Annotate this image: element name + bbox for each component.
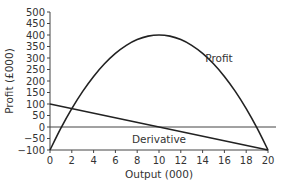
- x-tick-label: 10: [153, 155, 166, 166]
- y-tick-label: 250: [26, 64, 45, 75]
- y-tick-label: 0: [39, 122, 45, 133]
- x-axis-label: Output (000): [125, 168, 193, 180]
- x-tick-label: 14: [196, 155, 209, 166]
- x-tick-label: 2: [69, 155, 75, 166]
- x-tick-label: 20: [262, 155, 275, 166]
- y-tick-label: 50: [32, 110, 45, 121]
- y-tick-label: 400: [26, 30, 45, 41]
- series-label-derivative: Derivative: [132, 133, 186, 145]
- x-tick-label: 16: [218, 155, 231, 166]
- y-tick-label: 150: [26, 87, 45, 98]
- series-label-profit: Profit: [205, 52, 232, 64]
- y-tick-label: 300: [26, 53, 45, 64]
- x-tick-label: 12: [174, 155, 187, 166]
- y-tick-label: −100: [18, 145, 45, 156]
- x-axis-ticks: 02468101214161820: [47, 150, 275, 166]
- x-tick-label: 8: [134, 155, 140, 166]
- y-tick-label: 100: [26, 99, 45, 110]
- x-tick-label: 4: [90, 155, 96, 166]
- x-tick-label: 0: [47, 155, 53, 166]
- x-tick-label: 6: [112, 155, 118, 166]
- y-axis-label: Profit (£000): [3, 48, 15, 114]
- y-tick-label: 450: [26, 18, 45, 29]
- y-tick-label: 200: [26, 76, 45, 87]
- series-group: ProfitDerivative: [50, 35, 268, 150]
- y-tick-label: 500: [26, 7, 45, 18]
- y-tick-label: −50: [24, 133, 45, 144]
- chart: −100−50050100150200250300350400450500 02…: [0, 0, 285, 190]
- x-tick-label: 18: [240, 155, 253, 166]
- y-axis-ticks: −100−50050100150200250300350400450500: [18, 7, 50, 156]
- y-tick-label: 350: [26, 41, 45, 52]
